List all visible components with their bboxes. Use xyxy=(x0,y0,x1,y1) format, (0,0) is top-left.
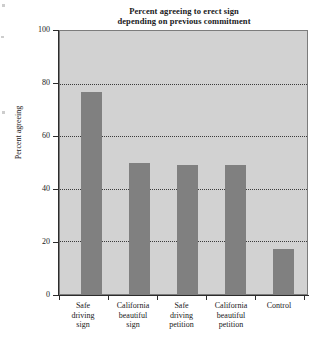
x-tick-mark-4 xyxy=(255,295,256,300)
x-cat-label-line: beautiful xyxy=(203,311,259,321)
x-cat-label-line: driving xyxy=(155,311,208,321)
y-tick-mark-40 xyxy=(53,189,58,190)
x-tick-mark-1 xyxy=(108,295,109,300)
x-cat-label-safe-driving-petition: Safe driving petition xyxy=(155,301,208,330)
bar-california-beautiful-sign xyxy=(129,163,150,295)
chart-title: Percent agreeing to erect sign depending… xyxy=(59,6,309,26)
x-cat-label-line: Control xyxy=(254,301,304,311)
y-tick-label-60: 60 xyxy=(24,132,50,140)
bar-safe-driving-petition xyxy=(177,165,198,294)
y-tick-label-80: 80 xyxy=(24,79,50,87)
x-cat-label-control: Control xyxy=(254,301,304,311)
chart-title-line-1: Percent agreeing to erect sign xyxy=(59,6,309,16)
x-cat-label-line: petition xyxy=(155,320,208,330)
y-axis-title: Percent agreeing xyxy=(14,78,23,188)
x-cat-label-line: beautiful xyxy=(105,311,161,321)
y-tick-mark-100 xyxy=(53,30,58,31)
x-cat-label-safe-driving-sign: Safe driving sign xyxy=(58,301,108,330)
x-cat-label-california-beautiful-petition: California beautiful petition xyxy=(203,301,259,330)
y-tick-mark-60 xyxy=(53,136,58,137)
x-cat-label-line: Safe xyxy=(155,301,208,311)
scan-artifact-lower-left xyxy=(2,111,5,114)
x-cat-label-line: California xyxy=(105,301,161,311)
scan-artifact-top-left xyxy=(2,4,5,7)
y-tick-label-40: 40 xyxy=(24,185,50,193)
x-tick-mark-2 xyxy=(157,295,158,300)
x-cat-label-line: sign xyxy=(105,320,161,330)
x-axis-line xyxy=(58,295,309,296)
chart-title-line-2: depending on previous commitment xyxy=(59,16,309,26)
x-cat-label-line: California xyxy=(203,301,259,311)
y-tick-label-100: 100 xyxy=(24,26,50,34)
x-tick-mark-3 xyxy=(206,295,207,300)
bar-chart-figure: Percent agreeing to erect sign depending… xyxy=(0,0,325,341)
y-axis-line xyxy=(58,30,59,296)
x-tick-mark-5 xyxy=(304,295,305,300)
x-cat-label-line: driving xyxy=(58,311,108,321)
plot-area xyxy=(59,30,308,295)
x-cat-label-line: Safe xyxy=(58,301,108,311)
x-cat-label-line: petition xyxy=(203,320,259,330)
y-tick-label-20: 20 xyxy=(24,238,50,246)
y-tick-mark-20 xyxy=(53,242,58,243)
y-tick-mark-80 xyxy=(53,83,58,84)
x-tick-mark-0 xyxy=(59,295,60,300)
bar-safe-driving-sign xyxy=(81,92,102,295)
gridline-80 xyxy=(60,84,307,85)
x-cat-label-california-beautiful-sign: California beautiful sign xyxy=(105,301,161,330)
scan-artifact-mid-left xyxy=(1,36,4,38)
bar-california-beautiful-petition xyxy=(225,165,246,294)
bar-control xyxy=(273,249,294,294)
x-cat-label-line: sign xyxy=(58,320,108,330)
y-tick-label-0: 0 xyxy=(24,291,50,299)
